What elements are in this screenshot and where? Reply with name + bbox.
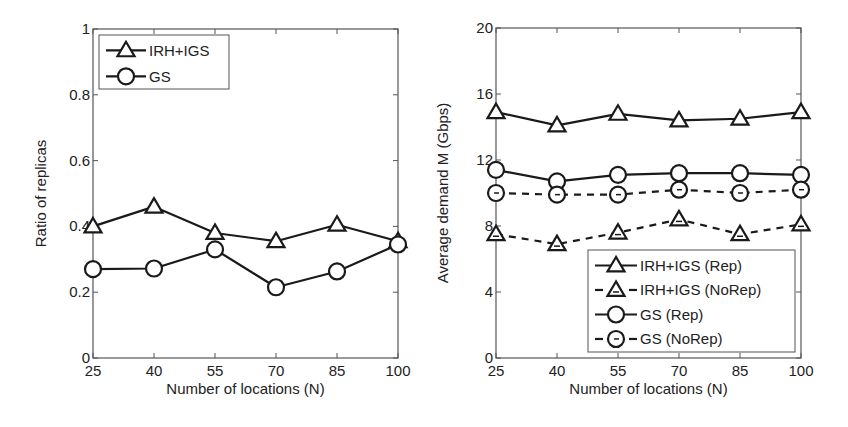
circle-marker-icon xyxy=(671,165,687,181)
average-demand-chart: 2540557085100048121620Number of location… xyxy=(434,19,814,397)
y-tick-label: 0 xyxy=(485,349,493,366)
circle-marker-icon xyxy=(608,306,624,322)
x-tick-label: 85 xyxy=(732,362,749,379)
y-axis-label: Ratio of replicas xyxy=(32,140,49,248)
legend-entry: GS (Rep) xyxy=(595,306,703,323)
triangle-marker-icon xyxy=(732,226,749,240)
series-line xyxy=(93,244,398,287)
y-tick-label: 0 xyxy=(82,349,90,366)
circle-marker-icon xyxy=(488,162,504,178)
y-tick-label: 1 xyxy=(82,20,90,37)
triangle-marker-icon xyxy=(610,105,627,119)
circle-marker-icon xyxy=(146,261,162,277)
x-tick-label: 100 xyxy=(788,362,813,379)
series-irh-igs-rep- xyxy=(488,104,810,132)
x-tick-label: 70 xyxy=(268,362,285,379)
series-line xyxy=(496,170,801,182)
legend: IRH+IGSGS xyxy=(99,35,229,89)
circle-marker-icon xyxy=(207,241,223,257)
x-tick-label: 55 xyxy=(610,362,627,379)
triangle-marker-icon xyxy=(793,216,810,230)
triangle-marker-icon xyxy=(207,224,224,238)
x-axis-label: Number of locations (N) xyxy=(166,380,324,397)
x-tick-label: 100 xyxy=(385,362,410,379)
triangle-marker-icon xyxy=(146,198,163,212)
legend-entry: IRH+IGS (Rep) xyxy=(595,257,742,274)
legend-label: IRH+IGS (NoRep) xyxy=(640,281,761,298)
figure: 254055708510000.20.40.60.81Number of loc… xyxy=(0,0,848,427)
series-gs-norep- xyxy=(488,182,809,203)
circle-marker-icon xyxy=(390,236,406,252)
legend-label: GS (NoRep) xyxy=(640,330,723,347)
x-tick-label: 40 xyxy=(146,362,163,379)
circle-marker-icon xyxy=(268,279,284,295)
x-tick-label: 55 xyxy=(207,362,224,379)
triangle-marker-icon xyxy=(793,104,810,118)
series-line xyxy=(93,207,398,242)
x-axis-label: Number of locations (N) xyxy=(569,380,727,397)
series-gs xyxy=(85,236,406,295)
y-tick-label: 0.8 xyxy=(69,86,90,103)
legend-entry: GS (NoRep) xyxy=(595,330,723,347)
series-line xyxy=(496,112,801,125)
series-line xyxy=(496,190,801,195)
circle-marker-icon xyxy=(793,167,809,183)
legend-label: IRH+IGS xyxy=(149,42,209,59)
legend: IRH+IGS (Rep)IRH+IGS (NoRep)GS (Rep)GS (… xyxy=(588,250,795,352)
y-axis-label: Average demand M (Gbps) xyxy=(434,103,451,284)
series-line xyxy=(496,219,801,244)
y-tick-label: 0.2 xyxy=(69,283,90,300)
circle-marker-icon xyxy=(610,167,626,183)
circle-marker-icon xyxy=(118,68,134,84)
legend-label: GS xyxy=(149,68,171,85)
circle-marker-icon xyxy=(732,165,748,181)
series-irh-igs-norep- xyxy=(488,211,810,250)
circle-marker-icon xyxy=(329,263,345,279)
y-tick-label: 4 xyxy=(485,283,493,300)
legend-label: GS (Rep) xyxy=(640,306,703,323)
x-tick-label: 40 xyxy=(549,362,566,379)
legend-label: IRH+IGS (Rep) xyxy=(640,257,742,274)
y-tick-label: 20 xyxy=(476,19,493,36)
y-tick-label: 16 xyxy=(476,85,493,102)
triangle-marker-icon xyxy=(671,211,688,225)
x-tick-label: 85 xyxy=(329,362,346,379)
triangle-marker-icon xyxy=(488,104,505,118)
triangle-marker-icon xyxy=(610,224,627,238)
series-gs-rep- xyxy=(488,162,809,190)
circle-marker-icon xyxy=(85,261,101,277)
series-irh-igs xyxy=(85,198,407,247)
triangle-marker-icon xyxy=(329,216,346,230)
x-tick-label: 70 xyxy=(671,362,688,379)
y-tick-label: 0.6 xyxy=(69,152,90,169)
replica-ratio-chart: 254055708510000.20.40.60.81Number of loc… xyxy=(32,20,411,397)
